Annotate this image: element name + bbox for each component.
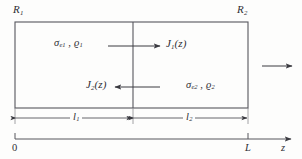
slab-rectangle [15,22,248,108]
current-label-j1: J1(z) [166,38,187,50]
material-label-region-2: σe2 , ϱ2 [186,80,215,91]
boundary-label-r2: R2 [237,4,247,16]
axis-tick-label-end: L [245,143,251,154]
axis-tick-label-origin: 0 [12,143,17,154]
z-axis [15,133,291,139]
material-label-region-1: σe1 , ϱ1 [54,38,83,49]
boundary-label-r1: R1 [13,4,23,16]
current-label-j2: J2(z) [86,79,107,91]
diagram-canvas [0,0,302,159]
axis-name-label: z [281,143,285,154]
dimension-witness-lines [15,108,248,124]
figure-container: R1 R2 σe1 , ϱ1 σe2 , ϱ2 J1(z) J2(z) l1 l… [0,0,302,159]
dimension-label-l1: l1 [70,112,82,123]
dimension-label-l2: l2 [183,112,195,123]
